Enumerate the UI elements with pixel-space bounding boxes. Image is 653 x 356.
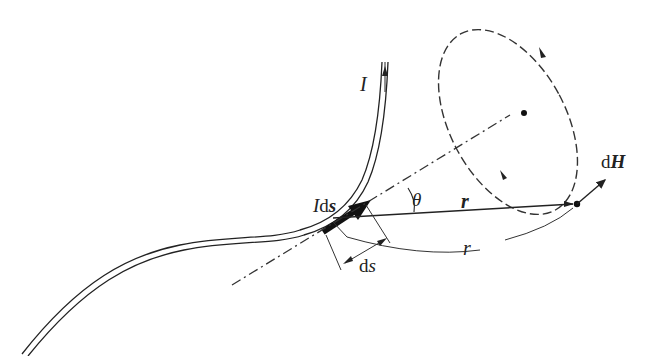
ds-arrow-left-icon (343, 256, 353, 264)
label-current-I: I (359, 73, 368, 95)
label-dH: dH (601, 151, 627, 172)
biot-savart-diagram: I Ids θ r r ds dH (0, 0, 653, 356)
loop-arrow-bottom-icon (500, 170, 507, 180)
dH-vector (577, 180, 605, 204)
label-ds-length: ds (359, 255, 376, 276)
label-current-element: Ids (312, 195, 336, 216)
label-theta: θ (412, 189, 421, 210)
label-r-vector: r (461, 190, 469, 212)
loop-center-dot (521, 110, 527, 116)
label-r-scalar: r (463, 237, 471, 259)
r-vector-arrowhead-icon (564, 201, 574, 207)
r-distance-arc-right (505, 208, 573, 240)
r-vector (333, 204, 573, 218)
loop-arrow-top-icon (539, 47, 546, 58)
